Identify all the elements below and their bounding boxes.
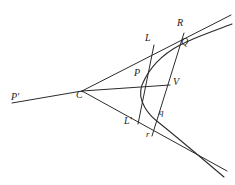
point-label-r-upper: R xyxy=(177,18,183,28)
point-label-r-lower: r xyxy=(146,130,150,139)
geometry-figure: P' C L R Q P V q L' r xyxy=(0,0,235,185)
point-label-l-prime: L' xyxy=(124,116,132,126)
point-label-q: Q xyxy=(181,37,188,47)
point-label-l: L xyxy=(145,33,151,43)
point-label-p-prime: P' xyxy=(11,92,19,102)
point-label-c: C xyxy=(76,90,83,100)
figure-canvas xyxy=(0,0,235,185)
ordinate-l-lprime-line xyxy=(138,45,154,124)
point-label-q-lower: q xyxy=(159,108,164,117)
point-label-v: V xyxy=(173,77,179,87)
diameter-line xyxy=(12,85,170,103)
lower-asymptote-line xyxy=(82,91,227,171)
upper-asymptote-line xyxy=(82,15,231,91)
point-label-p: P xyxy=(134,68,140,78)
